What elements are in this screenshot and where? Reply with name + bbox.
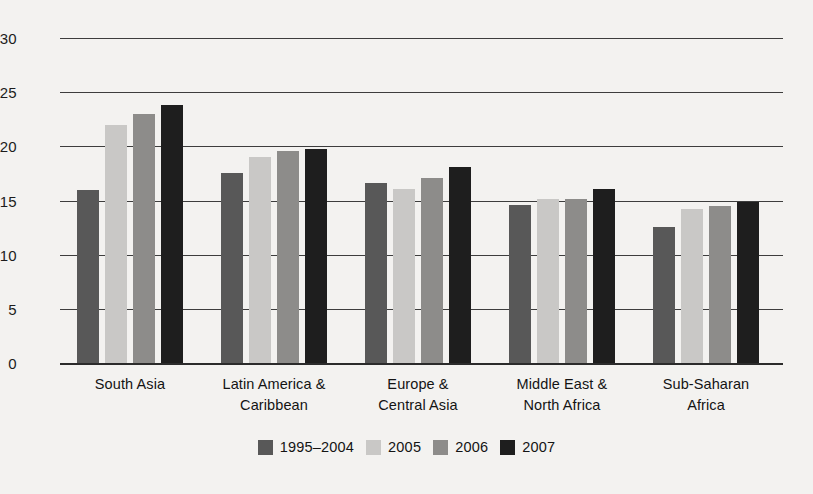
legend-swatch-icon — [500, 440, 515, 455]
bar[interactable] — [709, 206, 731, 363]
x-category-label-line: Africa — [631, 395, 781, 416]
x-category-label: Middle East &North Africa — [487, 374, 637, 416]
bar[interactable] — [393, 189, 415, 363]
plot-area: 051015202530 — [60, 38, 783, 363]
x-category-label: Europe &Central Asia — [343, 374, 493, 416]
axis-baseline — [60, 363, 783, 365]
bar[interactable] — [653, 227, 675, 364]
y-tick-label: 20 — [0, 139, 17, 154]
bar[interactable] — [277, 151, 299, 363]
bar[interactable] — [305, 149, 327, 364]
bar-chart: 051015202530 South AsiaLatin America &Ca… — [0, 0, 813, 494]
bar[interactable] — [509, 205, 531, 363]
bar[interactable] — [537, 199, 559, 363]
legend-label: 2005 — [388, 440, 421, 455]
legend-label: 1995–2004 — [280, 440, 354, 455]
legend-item[interactable]: 2007 — [500, 440, 555, 455]
x-category-label-line: Latin America & — [199, 374, 349, 395]
bar[interactable] — [421, 178, 443, 363]
legend-swatch-icon — [258, 440, 273, 455]
legend: 1995–2004200520062007 — [0, 440, 813, 455]
bar-group — [221, 38, 327, 363]
legend-item[interactable]: 2005 — [366, 440, 421, 455]
x-category-label-line: Caribbean — [199, 395, 349, 416]
bars-layer — [60, 38, 783, 363]
bar[interactable] — [77, 190, 99, 363]
y-tick-label: 15 — [0, 193, 17, 208]
legend-swatch-icon — [433, 440, 448, 455]
x-category-label: South Asia — [55, 374, 205, 395]
legend-label: 2007 — [522, 440, 555, 455]
legend-item[interactable]: 2006 — [433, 440, 488, 455]
legend-item[interactable]: 1995–2004 — [258, 440, 354, 455]
bar[interactable] — [565, 199, 587, 363]
bar[interactable] — [133, 114, 155, 363]
y-tick-label: 10 — [0, 247, 17, 262]
bar[interactable] — [593, 189, 615, 363]
x-category-label-line: Middle East & — [487, 374, 637, 395]
x-axis-category-labels: South AsiaLatin America &CaribbeanEurope… — [60, 374, 783, 426]
bar[interactable] — [105, 125, 127, 363]
bar[interactable] — [161, 105, 183, 363]
bar-group — [509, 38, 615, 363]
bar[interactable] — [737, 202, 759, 363]
x-category-label: Latin America &Caribbean — [199, 374, 349, 416]
bar[interactable] — [365, 183, 387, 363]
x-category-label-line: South Asia — [55, 374, 205, 395]
y-tick-label: 5 — [0, 301, 17, 316]
bar[interactable] — [249, 157, 271, 363]
legend-label: 2006 — [455, 440, 488, 455]
legend-swatch-icon — [366, 440, 381, 455]
x-category-label-line: Central Asia — [343, 395, 493, 416]
bar[interactable] — [221, 173, 243, 363]
bar[interactable] — [681, 209, 703, 363]
bar-group — [77, 38, 183, 363]
bar-group — [365, 38, 471, 363]
y-tick-label: 30 — [0, 31, 17, 46]
x-category-label-line: North Africa — [487, 395, 637, 416]
x-category-label-line: Sub-Saharan — [631, 374, 781, 395]
bar-group — [653, 38, 759, 363]
y-tick-label: 0 — [0, 356, 17, 371]
bar[interactable] — [449, 167, 471, 363]
x-category-label: Sub-SaharanAfrica — [631, 374, 781, 416]
y-tick-label: 25 — [0, 85, 17, 100]
x-category-label-line: Europe & — [343, 374, 493, 395]
